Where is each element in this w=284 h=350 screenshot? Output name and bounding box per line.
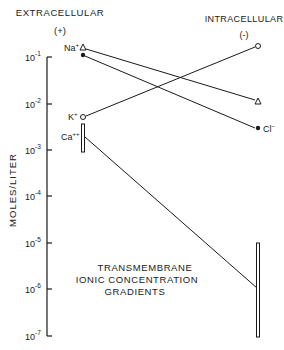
svg-text:10-1: 10-1 [25,50,41,63]
svg-text:10-6: 10-6 [25,282,41,295]
y-tick-labels: 10-1 10-2 10-3 10-4 10-5 10-6 10-7 [25,50,41,342]
svg-text:GRADIENTS: GRADIENTS [105,286,166,297]
intracellular-header: INTRACELLULAR [205,14,284,24]
na-intracellular-triangle-icon [255,98,261,104]
svg-text:10-5: 10-5 [25,236,41,249]
svg-text:IONIC CONCENTRATION: IONIC CONCENTRATION [76,274,199,285]
intracellular-sign: (-) [240,30,249,40]
k-extracellular-circle-icon [81,115,86,120]
gradient-lines [85,47,257,288]
cl-label: Cl− [263,123,276,134]
na-extracellular-triangle-icon [80,44,86,50]
y-axis-title: MOLES/LITER [7,153,18,227]
svg-text:TRANSMEMBRANE: TRANSMEMBRANE [98,262,193,273]
svg-text:10-4: 10-4 [25,189,41,202]
svg-text:10-2: 10-2 [25,97,41,110]
svg-text:10-3: 10-3 [25,143,41,156]
k-label: K+ [68,111,78,122]
cl-extracellular-dot-icon [81,53,85,57]
ca-label: Ca++ [61,131,80,142]
cl-intracellular-dot-icon [256,126,260,130]
chart-caption: TRANSMEMBRANE IONIC CONCENTRATION GRADIE… [76,262,199,297]
y-axis [47,57,52,336]
svg-text:10-7: 10-7 [25,329,41,342]
extracellular-header: EXTRACELLULAR [16,7,105,18]
ca-extracellular-range-bar [82,124,85,152]
extracellular-sign: (+) [54,25,66,36]
ca-intracellular-range-bar [257,243,260,337]
k-line [86,47,255,116]
na-label: Na+ [64,42,80,53]
k-intracellular-circle-icon [256,44,261,49]
ion-gradient-chart: EXTRACELLULAR (+) INTRACELLULAR (-) 10-1… [0,0,284,350]
